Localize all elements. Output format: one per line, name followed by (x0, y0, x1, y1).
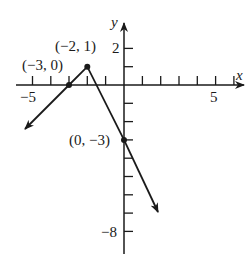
point-label-neg2-1: (−2, 1) (55, 38, 96, 55)
x-axis (16, 76, 244, 85)
x-tick-label-neg5: −5 (20, 89, 36, 105)
point-label-neg3-0: (−3, 0) (22, 57, 63, 74)
graph-figure: x y −5 5 2 −8 (−3, 0) (−2, 1) (0, −3) (0, 0, 250, 257)
y-tick-label-2: 2 (112, 40, 120, 56)
coordinate-plane: x y −5 5 2 −8 (−3, 0) (−2, 1) (0, −3) (0, 0, 250, 257)
point-neg2-1 (84, 64, 90, 70)
point-label-0-neg3: (0, −3) (69, 132, 110, 149)
point-neg3-0 (66, 82, 72, 88)
y-axis-label: y (109, 14, 118, 30)
y-tick-label-neg8: −8 (101, 224, 117, 240)
x-tick-label-5: 5 (210, 89, 218, 105)
point-0-neg3 (121, 137, 127, 143)
x-axis-label: x (235, 67, 243, 83)
x-axis-ticks (33, 76, 234, 85)
